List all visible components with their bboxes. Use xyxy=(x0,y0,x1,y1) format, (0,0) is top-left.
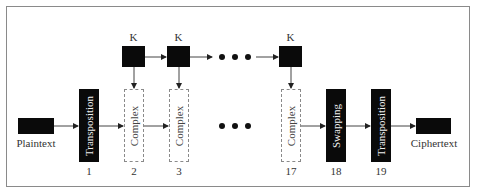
key-label: K xyxy=(279,31,302,43)
stage-label: Transposition xyxy=(375,95,387,155)
ellipsis-dot xyxy=(232,123,238,129)
plaintext-block xyxy=(18,118,54,134)
ellipsis-dot xyxy=(232,54,238,60)
key-label: K xyxy=(122,31,145,43)
connector-layer xyxy=(0,0,478,195)
stage-transposition-19: Transposition xyxy=(371,89,391,162)
key-block-1 xyxy=(122,46,145,67)
stage-label: Swapping xyxy=(330,104,342,148)
ellipsis-dot xyxy=(245,123,251,129)
stage-number: 1 xyxy=(79,165,99,177)
ellipsis-dot xyxy=(219,54,225,60)
key-label: K xyxy=(167,31,190,43)
key-block-3 xyxy=(279,46,302,67)
stage-complex-17: Complex xyxy=(281,89,301,162)
ellipsis-dot xyxy=(219,123,225,129)
plaintext-label: Plaintext xyxy=(8,137,64,149)
stage-label: Complex xyxy=(128,105,140,145)
stage-number: 3 xyxy=(169,165,189,177)
stage-complex-2: Complex xyxy=(124,89,144,162)
stage-number: 19 xyxy=(371,165,391,177)
stage-number: 18 xyxy=(326,165,346,177)
stage-swapping-18: Swapping xyxy=(326,89,346,162)
stage-number: 2 xyxy=(124,165,144,177)
stage-number: 17 xyxy=(281,165,301,177)
ciphertext-label: Ciphertext xyxy=(403,137,465,149)
stage-transposition-1: Transposition xyxy=(79,89,99,162)
ellipsis-dot xyxy=(245,54,251,60)
stage-label: Complex xyxy=(173,105,185,145)
key-block-2 xyxy=(167,46,190,67)
stage-label: Transposition xyxy=(83,95,95,155)
ciphertext-block xyxy=(416,118,451,134)
stage-label: Complex xyxy=(285,105,297,145)
stage-complex-3: Complex xyxy=(169,89,189,162)
